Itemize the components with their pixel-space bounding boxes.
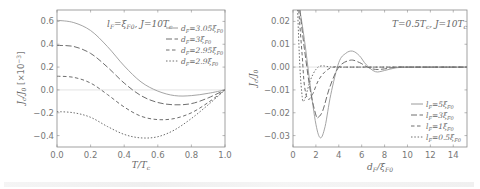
series-curve bbox=[57, 90, 225, 138]
y-tick-label: −0.01 bbox=[264, 85, 290, 95]
x-tick-label: 2 bbox=[313, 150, 318, 160]
y-tick-label: −0.4 bbox=[33, 131, 54, 141]
legend-entry: lF=1ξF0 bbox=[426, 122, 455, 132]
y-tick-label: 0.00 bbox=[271, 62, 290, 72]
right-annotation: T=0.5Tc, J=10Tc bbox=[392, 19, 468, 30]
y-tick-label: −0.2 bbox=[33, 108, 54, 118]
right-x-axis-label: dF/ξF0 bbox=[367, 162, 393, 173]
x-tick-label: 0.0 bbox=[50, 150, 64, 160]
y-tick-label: 0.02 bbox=[271, 16, 290, 26]
x-tick-label: 0.6 bbox=[151, 150, 165, 160]
y-tick-label: −0.02 bbox=[264, 108, 290, 118]
legend-entry: dF=2.9ξF0 bbox=[181, 57, 219, 67]
y-tick-label: −0.03 bbox=[264, 131, 290, 141]
left-y-axis-label: Jc/J0 [×10−3] bbox=[15, 51, 27, 106]
y-tick-label: 0.2 bbox=[40, 62, 54, 72]
legend-entry: dF=2.95ξF0 bbox=[181, 46, 224, 56]
right-chart-panel: 02468101214−0.03−0.02−0.010.000.010.02 T… bbox=[240, 0, 480, 180]
figure-caption-blurred bbox=[4, 182, 474, 187]
legend-entry: dF=3ξF0 bbox=[181, 35, 212, 45]
x-tick-label: 0.2 bbox=[84, 150, 98, 160]
x-tick-label: 4 bbox=[336, 150, 341, 160]
right-chart: 02468101214−0.03−0.02−0.010.000.010.02 T… bbox=[240, 0, 480, 180]
y-tick-label: 0.01 bbox=[271, 39, 290, 49]
x-tick-label: 8 bbox=[382, 150, 387, 160]
right-legend: lF=5ξF0lF=3ξF0lF=1ξF0lF=0.5ξF0 bbox=[411, 100, 462, 143]
left-x-axis-label: T/Tc bbox=[132, 160, 151, 171]
x-tick-label: 1.0 bbox=[218, 150, 232, 160]
left-chart-panel: 0.00.20.40.60.81.0−0.4−0.20.00.20.40.6 l… bbox=[0, 0, 240, 180]
right-y-axis-label: Jc/J0 bbox=[248, 69, 259, 88]
legend-entry: lF=3ξF0 bbox=[426, 111, 455, 121]
left-legend: dF=3.05ξF0dF=3ξF0dF=2.95ξF0dF=2.9ξF0 bbox=[166, 24, 224, 67]
x-tick-label: 14 bbox=[448, 150, 459, 160]
x-tick-label: 10 bbox=[402, 150, 413, 160]
series-curve bbox=[57, 76, 225, 120]
legend-entry: dF=3.05ξF0 bbox=[181, 24, 224, 34]
x-tick-label: 0 bbox=[290, 150, 295, 160]
legend-entry: lF=0.5ξF0 bbox=[426, 133, 462, 143]
x-tick-label: 0.8 bbox=[185, 150, 199, 160]
x-tick-label: 6 bbox=[359, 150, 364, 160]
left-chart: 0.00.20.40.60.81.0−0.4−0.20.00.20.40.6 l… bbox=[0, 0, 240, 180]
left-annotation: lF=ξF0, J=10Tc bbox=[107, 19, 173, 30]
y-tick-label: 0.0 bbox=[40, 85, 54, 95]
y-tick-label: 0.6 bbox=[40, 16, 54, 26]
legend-entry: lF=5ξF0 bbox=[426, 100, 455, 110]
x-tick-label: 0.4 bbox=[117, 150, 131, 160]
x-tick-label: 12 bbox=[425, 150, 436, 160]
y-tick-label: 0.4 bbox=[40, 39, 54, 49]
